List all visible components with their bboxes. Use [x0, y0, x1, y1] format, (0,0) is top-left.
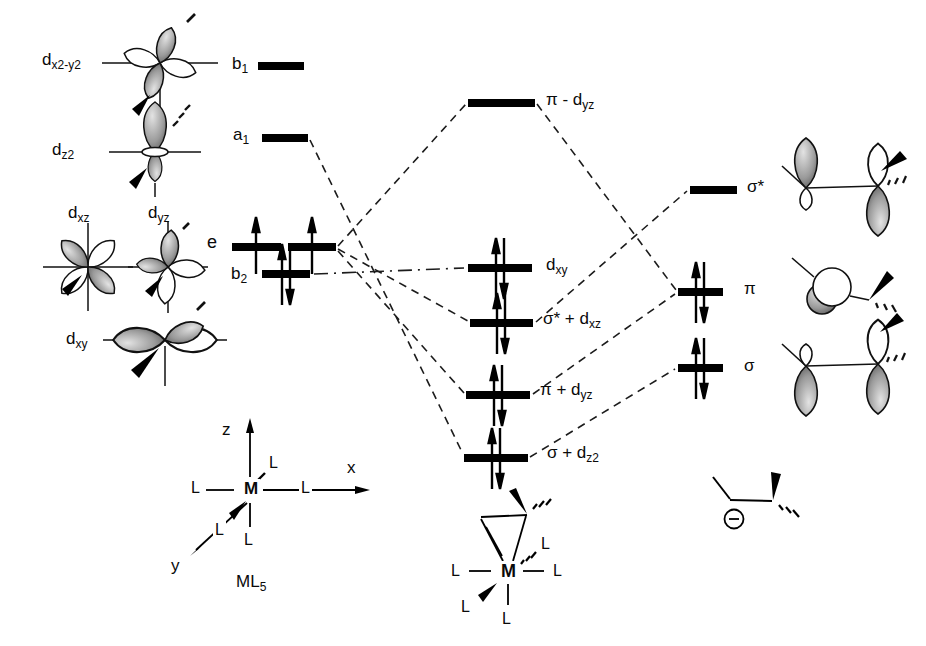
line-e-to-sigmastar-dxz [338, 249, 468, 321]
line-a1-to-sigma-dz2 [310, 140, 462, 452]
label-dyz: dyz [148, 203, 169, 226]
carbanion-wedge [771, 472, 781, 500]
label-ligand-axes-bottom: L [242, 531, 255, 549]
label-dxy-left: dxy [66, 329, 87, 352]
orbital-drawing-pi [792, 258, 896, 314]
label-dxz: dxz [68, 203, 89, 226]
alkene-double-bond [486, 527, 502, 556]
level-sigmastar-plus-dxz [470, 319, 533, 327]
bond-m-l-bottomleft-wedge [478, 583, 497, 602]
level-b1 [258, 62, 304, 70]
label-pi: π [744, 279, 756, 299]
bond-m-l-topright-hash [521, 552, 536, 564]
label-ml5: ML5 [236, 572, 266, 595]
anion-charge-icon [725, 510, 744, 529]
orbital-drawing-dxz [43, 223, 133, 311]
label-ligand-complex-bottomleft: L [459, 598, 472, 616]
diagram-artwork [0, 0, 926, 646]
label-dxy-center: dxy [546, 255, 567, 278]
label-metal-axes: M [242, 479, 260, 499]
level-sigma-plus-dz2 [464, 454, 528, 462]
line-e-to-pi-plus-dyz [338, 251, 464, 393]
level-dxy [468, 264, 532, 272]
label-z-axis: z [222, 420, 231, 440]
energy-level-bars [232, 62, 737, 462]
orbital-drawing-dx2y2 [102, 14, 218, 116]
carbanion-structure [713, 472, 799, 529]
label-dx2y2: dx2-y2 [42, 50, 81, 73]
alkene-wedge [509, 488, 527, 514]
label-sigma-star: σ* [747, 177, 764, 197]
label-ligand-axes-bottomleft: L [213, 521, 226, 539]
label-metal-complex: M [499, 561, 518, 582]
level-pi [678, 288, 723, 296]
level-a1 [262, 134, 308, 142]
label-b2: b2 [231, 264, 247, 287]
label-b1: b1 [232, 54, 248, 77]
label-sigma: σ [744, 356, 755, 376]
level-sigma [678, 364, 723, 372]
label-dz2: dz2 [52, 140, 74, 163]
orbital-drawing-sigma-star [782, 138, 907, 236]
electron-arrows [253, 217, 708, 489]
correlation-lines [310, 104, 687, 457]
level-pi-plus-dyz [466, 391, 530, 399]
label-e: e [207, 232, 217, 256]
orbital-drawing-dz2 [109, 102, 201, 197]
label-sigma-plus-dz2: σ + dz2 [547, 443, 599, 466]
label-ligand-axes-topright: L [267, 454, 280, 472]
label-ligand-complex-bottom: L [500, 610, 513, 628]
level-sigma-star [690, 186, 737, 194]
label-a1: a1 [233, 125, 249, 148]
label-ligand-complex-right: L [551, 562, 564, 580]
label-pi-plus-dyz: π + dyz [540, 380, 593, 403]
z-axis-arrow [246, 418, 254, 477]
label-y-axis: y [171, 556, 180, 576]
label-x-axis: x [347, 458, 356, 478]
level-b2 [262, 270, 310, 278]
label-ligand-complex-left: L [449, 562, 462, 580]
level-pi-minus-dyz [468, 99, 535, 107]
label-pi-minus-dyz: π - dyz [546, 90, 594, 113]
x-axis-arrow [263, 486, 370, 494]
label-ligand-complex-topright: L [539, 535, 552, 553]
orbital-drawing-dyz [128, 221, 208, 313]
orbital-drawing-dxy [103, 302, 227, 386]
mo-diagram-page: dx2-y2 b1 dz2 a1 dxz dyz e b2 dxy π - dy… [0, 0, 926, 646]
line-e-to-pi-minus-dyz [338, 104, 466, 246]
line-b2-to-dxy [314, 268, 464, 274]
label-ligand-axes-right: L [299, 479, 312, 497]
label-ligand-axes-left: L [189, 479, 202, 497]
label-sigmastar-plus-dxz: σ* + dxz [543, 309, 601, 332]
orbital-drawing-sigma [782, 313, 905, 416]
